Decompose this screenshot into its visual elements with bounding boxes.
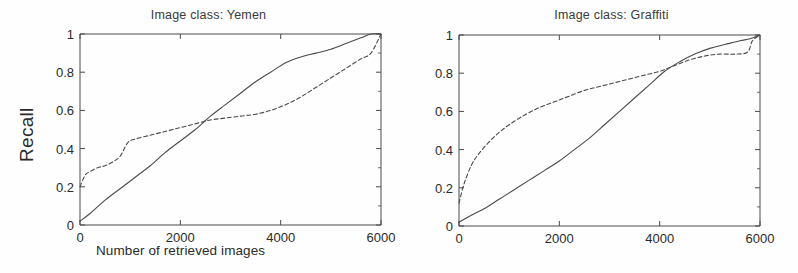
axes-box bbox=[80, 34, 381, 225]
plot-area: 00.20.40.60.810200040006000 bbox=[459, 35, 760, 226]
recall-figure: Image class: Yemen Recall Number of retr… bbox=[0, 0, 798, 273]
series-line-dashed bbox=[459, 35, 760, 203]
axes-and-series bbox=[459, 35, 760, 226]
y-tick-label: 0.2 bbox=[34, 179, 74, 194]
y-tick-label: 0.8 bbox=[34, 65, 74, 80]
y-tick-label: 1 bbox=[413, 28, 453, 43]
axes-box bbox=[459, 35, 760, 226]
x-axis-label: Number of retrieved images bbox=[96, 243, 265, 258]
axes-and-series bbox=[80, 34, 381, 225]
y-tick-label: 0.2 bbox=[413, 180, 453, 195]
y-tick-label: 0.6 bbox=[413, 104, 453, 119]
chart-panel-yemen: Image class: Yemen Recall Number of retr… bbox=[0, 0, 399, 273]
y-tick-label: 0 bbox=[413, 219, 453, 234]
x-tick-label: 6000 bbox=[367, 230, 396, 245]
y-tick-label: 0.8 bbox=[413, 66, 453, 81]
x-tick-label: 2000 bbox=[166, 230, 195, 245]
y-tick-label: 0 bbox=[34, 218, 74, 233]
panel-title: Image class: Yemen bbox=[0, 8, 399, 22]
x-tick-label: 0 bbox=[455, 231, 462, 246]
plot-area: 00.20.40.60.810200040006000 bbox=[80, 34, 381, 225]
x-tick-label: 4000 bbox=[645, 231, 674, 246]
y-tick-label: 0.6 bbox=[34, 103, 74, 118]
series-line-solid bbox=[80, 34, 381, 221]
series-line-dashed bbox=[80, 34, 381, 187]
x-tick-label: 0 bbox=[76, 230, 83, 245]
y-tick-label: 0.4 bbox=[413, 142, 453, 157]
y-tick-label: 0.4 bbox=[34, 141, 74, 156]
panel-title: Image class: Graffiti bbox=[399, 8, 798, 22]
chart-panel-graffiti: Image class: Graffiti Recall Number of r… bbox=[399, 0, 798, 273]
x-tick-label: 6000 bbox=[746, 231, 775, 246]
x-tick-label: 2000 bbox=[545, 231, 574, 246]
y-tick-label: 1 bbox=[34, 27, 74, 42]
x-tick-label: 4000 bbox=[266, 230, 295, 245]
